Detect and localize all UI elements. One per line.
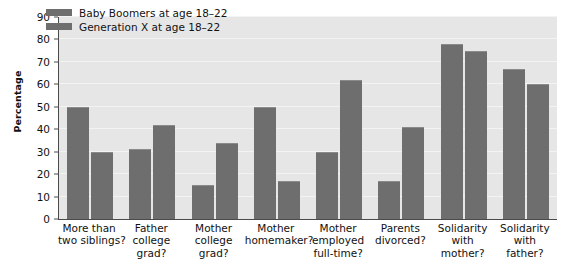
x-axis-label-line: Mother xyxy=(245,222,307,234)
x-axis-label-line: father? xyxy=(494,247,556,259)
bar xyxy=(378,181,400,219)
x-axis-label-line: with xyxy=(432,234,494,246)
bars-layer xyxy=(59,17,557,219)
bar xyxy=(216,143,238,219)
x-axis-label-line: Father xyxy=(120,222,182,234)
bar xyxy=(278,181,300,219)
legend-item-baby-boomers: Baby Boomers at age 18–22 xyxy=(46,6,227,19)
x-axis-label-line: Mother xyxy=(307,222,369,234)
x-axis-label: Solidaritywithmother? xyxy=(432,222,494,259)
bar xyxy=(503,69,525,219)
legend-item-generation-x: Generation X at age 18–22 xyxy=(46,20,227,33)
x-axis-label-line: homemaker? xyxy=(245,234,307,246)
x-axis-label: Parentsdivorced? xyxy=(369,222,431,247)
x-axis-label: Motheremployedfull-time? xyxy=(307,222,369,259)
x-axis-label: More thantwo siblings? xyxy=(58,222,120,247)
y-tick-label: 10 xyxy=(10,191,50,203)
y-tick-label: 30 xyxy=(10,146,50,158)
x-axis-label-line: employed xyxy=(307,234,369,246)
bar xyxy=(254,107,276,219)
x-axis-label-line: mother? xyxy=(432,247,494,259)
legend-label: Baby Boomers at age 18–22 xyxy=(79,7,227,19)
x-axis-label: Motherhomemaker? xyxy=(245,222,307,247)
bar-chart: Percentage 0102030405060708090 Baby Boom… xyxy=(0,0,575,272)
x-axis-label-line: college xyxy=(120,234,182,246)
x-axis-label-line: Mother xyxy=(183,222,245,234)
x-axis-label-line: Solidarity xyxy=(494,222,556,234)
bar xyxy=(192,185,214,219)
bar xyxy=(465,51,487,219)
x-axis-label-line: divorced? xyxy=(369,234,431,246)
bar xyxy=(402,127,424,219)
bar xyxy=(316,152,338,219)
x-axis-label-line: grad? xyxy=(120,247,182,259)
bar xyxy=(153,125,175,219)
x-axis-label-line: full-time? xyxy=(307,247,369,259)
bar xyxy=(441,44,463,219)
y-tick-label: 90 xyxy=(10,11,50,23)
x-axis-label-line: college xyxy=(183,234,245,246)
bar xyxy=(340,80,362,219)
bar xyxy=(129,149,151,219)
plot-area xyxy=(58,17,557,220)
x-axis-label-line: Solidarity xyxy=(432,222,494,234)
x-axis-label-line: with xyxy=(494,234,556,246)
y-tick-label: 50 xyxy=(10,101,50,113)
legend-swatch-icon xyxy=(46,23,72,30)
y-tick-label: 60 xyxy=(10,78,50,90)
x-axis-label-line: two siblings? xyxy=(58,234,120,246)
y-tick-label: 70 xyxy=(10,56,50,68)
x-axis-label-line: grad? xyxy=(183,247,245,259)
y-axis: 0102030405060708090 xyxy=(0,0,58,272)
y-tick-label: 80 xyxy=(10,33,50,45)
x-axis-label-line: Parents xyxy=(369,222,431,234)
y-tick-label: 20 xyxy=(10,168,50,180)
bar xyxy=(527,84,549,219)
x-axis-labels: More thantwo siblings?Fathercollegegrad?… xyxy=(58,222,556,272)
x-axis-label: Fathercollegegrad? xyxy=(120,222,182,259)
y-tick-label: 0 xyxy=(10,213,50,225)
legend-swatch-icon xyxy=(46,9,72,16)
x-axis-label: Mothercollegegrad? xyxy=(183,222,245,259)
bar xyxy=(67,107,89,219)
x-axis-label-line: More than xyxy=(58,222,120,234)
y-tick-label: 40 xyxy=(10,123,50,135)
bar xyxy=(91,152,113,219)
x-axis-label: Solidaritywithfather? xyxy=(494,222,556,259)
chart-legend: Baby Boomers at age 18–22 Generation X a… xyxy=(46,6,227,34)
legend-label: Generation X at age 18–22 xyxy=(79,21,220,33)
